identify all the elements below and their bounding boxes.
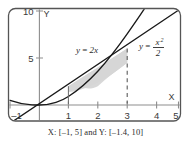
x-tick-label-2: 2 (95, 110, 100, 121)
y-axis-label: Y (44, 9, 50, 19)
plot-canvas: 10 5 –1 1 2 3 4 5 Y X y = 2x y = x 2 2 (0, 0, 191, 147)
parab-eq-exponent: 2 (161, 37, 164, 43)
figure-caption: X: [–1, 5] and Y: [–1.4, 10] (0, 127, 191, 137)
y-tick-label-5: 5 (28, 53, 33, 64)
x-tick-label-5: 5 (173, 110, 178, 121)
x-tick-label-4: 4 (154, 110, 159, 121)
svg-text:y =: y = (138, 41, 150, 51)
parab-eq-sign: = (145, 41, 150, 51)
x-tick-label-1: 1 (66, 110, 71, 121)
annotation-line-equation: y = 2x (75, 45, 98, 55)
line-eq-rhs: 2x (90, 45, 99, 55)
graph-figure: 10 5 –1 1 2 3 4 5 Y X y = 2x y = x 2 2 X… (0, 0, 191, 147)
parab-eq-numerator: x (155, 37, 160, 47)
parab-eq-denominator: 2 (156, 48, 161, 58)
x-tick-label-neg1: –1 (11, 110, 22, 121)
x-axis-label: X (168, 92, 174, 102)
svg-text:y = 2x: y = 2x (75, 45, 98, 55)
y-tick-label-10: 10 (23, 6, 34, 17)
x-tick-label-3: 3 (125, 110, 130, 121)
